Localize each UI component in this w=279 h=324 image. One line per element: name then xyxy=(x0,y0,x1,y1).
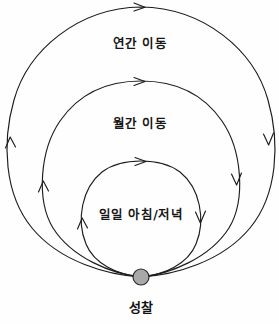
loop-daily-label: 일일 아침/저녁 xyxy=(99,207,183,222)
reflection-node-label: 성찰 xyxy=(129,300,154,315)
loop-annual-label: 연간 이동 xyxy=(113,36,167,51)
loop-annual[interactable]: 연간 이동 xyxy=(6,3,275,277)
loop-annual-arrow-right-icon xyxy=(264,133,274,145)
loop-daily[interactable]: 일일 아침/저녁 xyxy=(78,158,206,278)
loop-monthly-label: 월간 이동 xyxy=(113,116,167,131)
loop-monthly[interactable]: 월간 이동 xyxy=(39,78,242,278)
cycle-diagram-svg: 연간 이동 월간 이동 일일 아침/저녁 성찰 xyxy=(0,0,279,324)
loop-monthly-arrow-left-icon xyxy=(39,181,49,192)
cycle-diagram-canvas: 연간 이동 월간 이동 일일 아침/저녁 성찰 xyxy=(0,0,279,324)
loop-daily-arrow-left-icon xyxy=(78,218,88,229)
reflection-node[interactable] xyxy=(133,269,149,285)
loop-monthly-path xyxy=(42,81,239,277)
